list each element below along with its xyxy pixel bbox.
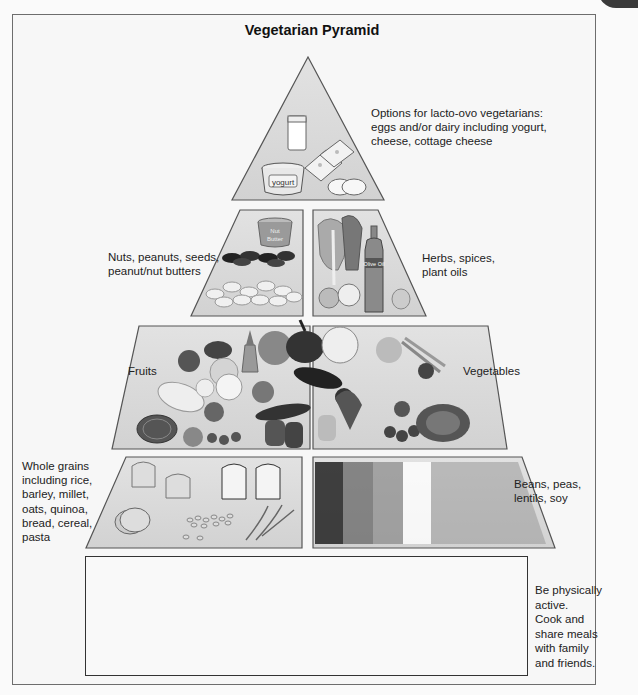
activity-box bbox=[85, 556, 528, 676]
label-fruits: Fruits bbox=[128, 364, 157, 378]
label-beans-legumes: Beans, peas, lentils, soy bbox=[514, 477, 581, 505]
label-physical-activity: Be physically active. Cook and share mea… bbox=[535, 583, 602, 671]
label-vegetables: Vegetables bbox=[463, 364, 520, 378]
tier-top-dairy-eggs: yogurt bbox=[232, 57, 384, 200]
beans-icon bbox=[315, 462, 546, 544]
label-dairy-eggs: Options for lacto-ovo vegetarians: eggs … bbox=[371, 106, 547, 148]
svg-text:Olive Oil: Olive Oil bbox=[364, 261, 385, 267]
milk-glass-icon bbox=[288, 116, 306, 150]
svg-text:Nut: Nut bbox=[270, 228, 280, 234]
label-herbs-oils: Herbs, spices, plant oils bbox=[422, 251, 495, 279]
label-nuts-seeds: Nuts, peanuts, seeds, peanut/nut butters bbox=[108, 250, 219, 278]
yogurt-icon: yogurt bbox=[262, 163, 304, 195]
label-whole-grains: Whole grains including rice, barley, mil… bbox=[22, 459, 92, 544]
tier-whole-grains bbox=[86, 457, 302, 548]
svg-text:yogurt: yogurt bbox=[272, 178, 295, 187]
eggs-icon bbox=[328, 179, 366, 195]
garlic-icon bbox=[392, 289, 410, 309]
tier-herbs-oils: Olive Oil bbox=[313, 210, 426, 316]
nut-butter-jar-icon: Nut Butter bbox=[258, 218, 292, 247]
svg-text:Butter: Butter bbox=[267, 236, 283, 242]
